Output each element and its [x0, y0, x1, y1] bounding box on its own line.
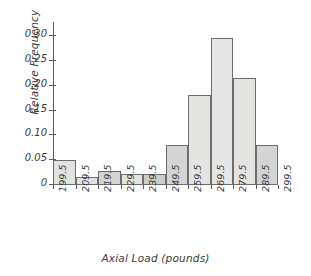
x-tick-label: 199.5: [57, 164, 68, 192]
x-tick-label: 269.5: [215, 164, 226, 192]
x-tick-label: 249.5: [170, 164, 181, 192]
y-tick-label: 0: [41, 177, 47, 188]
y-tick-mark: [49, 85, 56, 86]
y-tick-mark: [49, 134, 56, 135]
x-tick-label: 219.5: [102, 164, 113, 192]
histogram-figure: Relative Frequency 00.050.100.150.200.25…: [0, 0, 311, 276]
y-tick-mark: [49, 35, 56, 36]
x-tick-mark: [233, 185, 234, 189]
x-tick-mark: [143, 185, 144, 189]
y-tick-label: 0.25: [25, 53, 47, 64]
x-tick-label: 259.5: [192, 164, 203, 192]
y-tick-label: 0.15: [25, 103, 47, 114]
x-tick-label: 239.5: [147, 164, 158, 192]
y-axis-title: Relative Frequency: [28, 0, 40, 142]
x-tick-label: 299.5: [282, 164, 293, 192]
y-tick-mark: [49, 60, 56, 61]
y-tick-mark: [49, 110, 56, 111]
x-tick-label: 229.5: [125, 164, 136, 192]
x-tick-mark: [121, 185, 122, 189]
x-tick-mark: [76, 185, 77, 189]
x-tick-mark: [53, 185, 54, 189]
x-tick-mark: [98, 185, 99, 189]
y-tick-label: 0.05: [25, 152, 47, 163]
plot-area: 00.050.100.150.200.250.30 199.5209.5219.…: [53, 28, 278, 185]
histogram-bar: [211, 38, 234, 185]
x-tick-label: 289.5: [260, 164, 271, 192]
x-axis-title: Axial Load (pounds): [0, 252, 311, 264]
y-tick-label: 0.30: [25, 28, 47, 39]
y-tick-label: 0.10: [25, 127, 47, 138]
x-tick-label: 209.5: [80, 164, 91, 192]
x-tick-mark: [188, 185, 189, 189]
x-tick-mark: [278, 185, 279, 189]
y-tick-label: 0.20: [25, 78, 47, 89]
x-tick-mark: [211, 185, 212, 189]
x-tick-mark: [166, 185, 167, 189]
x-tick-mark: [256, 185, 257, 189]
x-tick-label: 279.5: [237, 164, 248, 192]
